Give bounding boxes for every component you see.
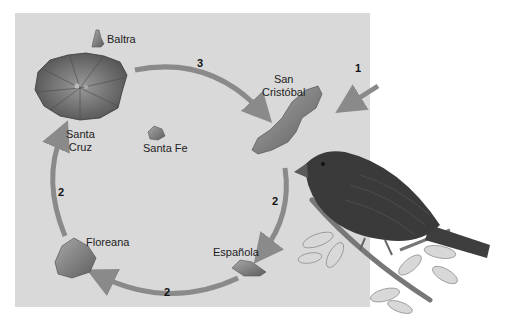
step-number-1: 1	[355, 62, 361, 74]
arrow-1-arrival	[348, 86, 378, 105]
label-baltra: Baltra	[107, 33, 136, 46]
island-santafe-icon	[148, 126, 165, 140]
label-floreana: Floreana	[86, 236, 129, 249]
label-sancristobal: San Cristóbal	[262, 73, 305, 99]
label-santacruz-line2: Cruz	[66, 141, 95, 154]
label-sancristobal-line2: Cristóbal	[262, 86, 305, 99]
label-sancristobal-line1: San	[262, 73, 305, 86]
label-santacruz-line1: Santa	[66, 128, 95, 141]
finch-illustration	[294, 151, 490, 316]
label-santacruz: Santa Cruz	[66, 128, 95, 154]
label-santafe: Santa Fe	[143, 142, 188, 155]
label-espanola: Española	[213, 246, 259, 259]
step-number-2-left: 2	[58, 186, 64, 198]
step-number-2-right: 2	[272, 195, 278, 207]
island-baltra-icon	[92, 30, 104, 47]
island-santacruz-icon	[35, 53, 127, 120]
arrow-2-sancristobal-to-espanola	[263, 168, 286, 252]
diagram-graphics	[0, 0, 513, 323]
step-number-2-bottom: 2	[164, 286, 170, 298]
arrow-2-floreana-to-santacruz	[53, 134, 65, 236]
arrow-3-santacruz-to-sancristobal	[135, 67, 262, 112]
island-espanola-icon	[232, 260, 266, 276]
step-number-3: 3	[197, 57, 203, 69]
